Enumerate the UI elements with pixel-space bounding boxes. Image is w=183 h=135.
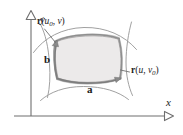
vector-a-arrowhead-icon <box>115 77 122 82</box>
x-axis-arrowhead-icon <box>165 111 174 120</box>
figure-canvas <box>0 0 183 135</box>
y-axis-arrowhead-icon <box>26 11 36 20</box>
patch-fill <box>55 36 121 83</box>
grid-curve-u0-left <box>41 25 50 98</box>
grid-curve-v-bottom <box>41 87 129 101</box>
figure-container: y x r(u0, v) r(u, v0) b a <box>0 0 183 135</box>
grid-curve-u-right <box>126 22 133 96</box>
surface-patch-group <box>53 34 123 85</box>
